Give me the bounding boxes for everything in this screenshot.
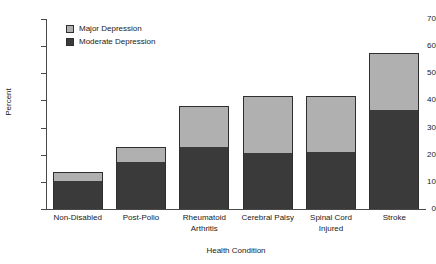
bar-segment-moderate-depression [369,110,419,209]
bar-stack [369,53,419,209]
legend-swatch [66,38,74,46]
bar-segment-moderate-depression [116,162,166,210]
x-axis-tick-label: Spinal CordInjured [299,212,362,234]
x-axis-tick-labels: Non-DisabledPost-PolioRheumatoidArthriti… [46,212,426,246]
y-axis-title: Percent [5,72,13,132]
legend-label: Major Depression [79,24,142,33]
x-axis-line [46,209,426,210]
bar-group [306,19,356,209]
legend-label: Moderate Depression [79,37,155,46]
bar-stack [306,96,356,209]
bar-segment-major-depression [306,96,356,152]
bar-segment-moderate-depression [306,152,356,209]
bar-segment-major-depression [369,53,419,110]
stacked-bar-chart: Percent 010203040506070 Non-DisabledPost… [0,0,436,264]
legend-swatch [66,25,74,33]
x-axis-tick-label: RheumatoidArthritis [173,212,236,234]
x-axis-tick-label-line: Injured [299,223,362,234]
x-axis-tick-label: Stroke [363,212,426,223]
x-axis-tick-label-line: Non-Disabled [46,212,109,223]
x-axis-tick-label-line: Post-Polio [109,212,172,223]
bar-segment-moderate-depression [53,181,103,210]
bar-segment-major-depression [53,172,103,180]
bar-group [243,19,293,209]
bar-stack [243,96,293,209]
x-axis-title: Health Condition [46,246,426,255]
bar-segment-major-depression [116,147,166,162]
x-axis-tick-label-line: Rheumatoid [173,212,236,223]
bar-stack [179,106,229,209]
x-axis-tick-label-line: Spinal Cord [299,212,362,223]
bar-segment-moderate-depression [243,153,293,209]
legend-item: Moderate Depression [66,35,216,48]
x-axis-tick-label-line: Stroke [363,212,426,223]
x-axis-tick-label: Post-Polio [109,212,172,223]
bar-segment-major-depression [179,106,229,147]
x-axis-tick-label: Cerebral Palsy [236,212,299,223]
chart-legend: Major DepressionModerate Depression [66,22,216,48]
x-axis-tick-label-line: Cerebral Palsy [236,212,299,223]
x-axis-tick-label-line: Arthritis [173,223,236,234]
bar-group [369,19,419,209]
bar-segment-major-depression [243,96,293,153]
bar-stack [116,147,166,209]
x-axis-tick-label: Non-Disabled [46,212,109,223]
y-axis-tick [41,209,46,210]
legend-item: Major Depression [66,22,216,35]
bar-stack [53,172,103,209]
bar-segment-moderate-depression [179,147,229,209]
